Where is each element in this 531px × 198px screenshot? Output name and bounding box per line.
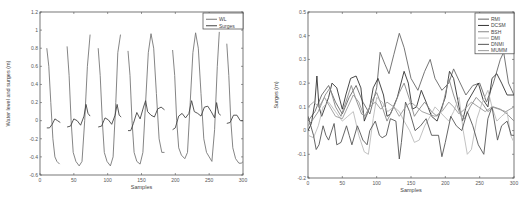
model-surges-plot: 050100150200250300-0.2-0.100.10.20.30.40… (265, 0, 531, 198)
water-level-surges-chart: 050100150200250300-0.6-0.4-0.200.20.40.6… (0, 0, 265, 198)
x-axis-label: Samples (131, 184, 153, 190)
y-axis-label: Surges (m) (273, 81, 279, 108)
x-tick-label: 0 (39, 177, 42, 183)
y-tick-label: 0.6 (31, 63, 38, 69)
water-level-surges-plot: 050100150200250300-0.6-0.4-0.200.20.40.6… (0, 0, 265, 198)
x-tick-label: 100 (103, 177, 112, 183)
legend-label: WL (219, 16, 227, 22)
y-tick-label: 0.2 (299, 80, 306, 86)
y-tick-label: -0.4 (29, 154, 38, 160)
y-tick-label: -0.1 (297, 151, 306, 157)
legend-label: DCSM (491, 22, 506, 28)
legend-label: Surges (219, 23, 235, 29)
x-tick-label: 200 (441, 180, 450, 186)
legend-label: DNMI (491, 41, 504, 47)
y-tick-label: 0 (303, 127, 306, 133)
x-axis-label: Samples (400, 187, 422, 193)
y-tick-label: 0.1 (299, 104, 306, 110)
x-tick-label: 150 (137, 177, 146, 183)
y-tick-label: -0.2 (297, 175, 306, 181)
x-tick-label: 50 (340, 180, 346, 186)
y-tick-label: 0.4 (31, 81, 38, 87)
x-tick-label: 300 (239, 177, 248, 183)
x-tick-label: 150 (407, 180, 416, 186)
legend-label: BSH (491, 29, 502, 35)
y-tick-label: 1 (35, 27, 38, 33)
y-tick-label: 0.3 (299, 56, 306, 62)
y-tick-label: 0 (35, 117, 38, 123)
y-tick-label: 0.8 (31, 45, 38, 51)
x-tick-label: 300 (510, 180, 519, 186)
legend-label: DMI (491, 35, 500, 41)
y-tick-label: 0.2 (31, 99, 38, 105)
y-tick-label: -0.6 (29, 172, 38, 178)
x-tick-label: 250 (475, 180, 484, 186)
y-tick-label: 0.4 (299, 33, 306, 39)
legend-label: RMI (491, 16, 500, 22)
x-tick-label: 100 (372, 180, 381, 186)
legend-label: MUMM (491, 47, 507, 53)
x-tick-label: 200 (171, 177, 180, 183)
legend: RMIDCSMBSHDMIDNMIMUMM (475, 13, 514, 54)
y-axis-label: Water level and surges (m) (5, 60, 11, 126)
y-tick-label: 1.2 (31, 9, 38, 15)
y-tick-label: -0.2 (29, 136, 38, 142)
x-tick-label: 50 (71, 177, 77, 183)
x-tick-label: 250 (205, 177, 214, 183)
model-surges-chart: 050100150200250300-0.2-0.100.10.20.30.40… (265, 0, 531, 198)
x-tick-label: 0 (307, 180, 310, 186)
y-tick-label: 0.5 (299, 9, 306, 15)
legend: WLSurges (203, 13, 243, 29)
